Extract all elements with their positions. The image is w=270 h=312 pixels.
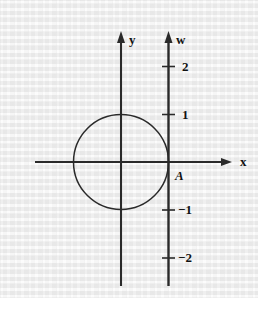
- w-axis-tick-label-1: 1: [182, 108, 189, 121]
- point-a-label: A: [175, 169, 184, 182]
- y-axis-arrowhead-icon: [117, 31, 125, 43]
- w-axis: [162, 31, 175, 286]
- y-axis-label: y: [129, 33, 136, 46]
- w-axis-tick-label-neg-2: −2: [178, 251, 192, 264]
- w-axis-tick-label-neg-1: −1: [178, 203, 192, 216]
- x-axis: [35, 158, 232, 166]
- figure-container: y w x 2 1 −1 −2 A: [0, 0, 270, 312]
- x-axis-arrowhead-icon: [221, 158, 232, 166]
- w-axis-arrowhead-icon: [165, 31, 173, 43]
- w-axis-tick-label-2: 2: [182, 60, 189, 73]
- w-axis-label: w: [176, 33, 185, 46]
- y-axis: [117, 31, 125, 286]
- x-axis-label: x: [240, 155, 247, 168]
